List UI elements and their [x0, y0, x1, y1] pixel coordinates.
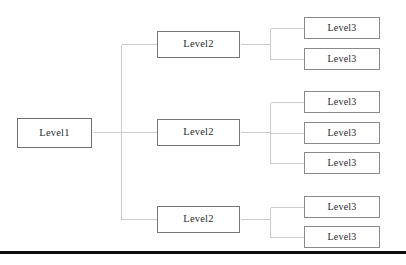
node-label: Level3	[328, 97, 357, 107]
node-label: Level3	[328, 128, 357, 138]
node-label: Level3	[328, 158, 357, 168]
node-level3-middle-1[interactable]: Level3	[304, 91, 380, 113]
node-level2-bottom[interactable]: Level2	[157, 206, 240, 233]
node-label: Level2	[183, 127, 213, 138]
node-level1-root[interactable]: Level1	[17, 118, 92, 148]
node-level3-middle-2[interactable]: Level3	[304, 122, 380, 144]
node-label: Level2	[183, 214, 213, 225]
node-label: Level3	[328, 232, 357, 242]
node-level3-bottom-1[interactable]: Level3	[304, 196, 380, 218]
node-label: Level3	[328, 54, 357, 64]
baseline-rule	[0, 251, 406, 254]
node-label: Level2	[183, 39, 213, 50]
node-level3-middle-3[interactable]: Level3	[304, 152, 380, 174]
node-label: Level3	[328, 23, 357, 33]
node-label: Level1	[39, 127, 69, 138]
diagram-canvas: Level1 Level2 Level2 Level2 Level3 Level…	[0, 0, 406, 265]
node-level2-top[interactable]: Level2	[157, 31, 240, 58]
node-level3-top-2[interactable]: Level3	[304, 48, 380, 70]
node-level2-middle[interactable]: Level2	[157, 119, 240, 146]
node-level3-top-1[interactable]: Level3	[304, 17, 380, 39]
node-label: Level3	[328, 202, 357, 212]
node-level3-bottom-2[interactable]: Level3	[304, 226, 380, 248]
